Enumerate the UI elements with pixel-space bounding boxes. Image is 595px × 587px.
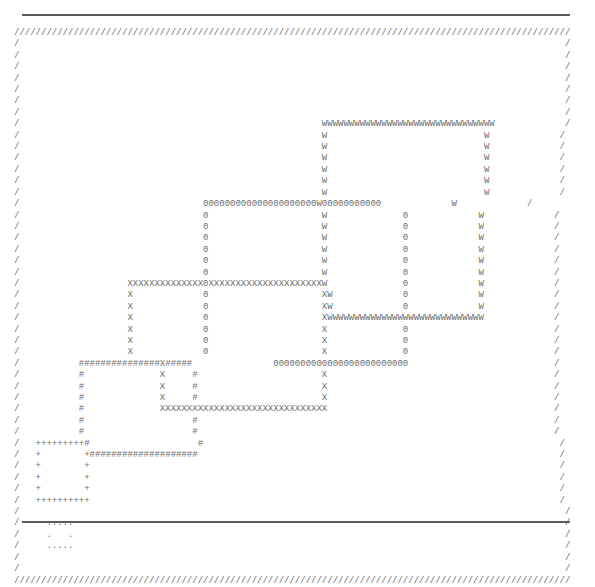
ascii-art-canvas: ////////////////////////////////////////…	[14, 28, 580, 516]
top-horizontal-rule	[22, 14, 570, 16]
ascii-art-text: ////////////////////////////////////////…	[14, 28, 580, 587]
bottom-horizontal-rule	[22, 521, 570, 523]
